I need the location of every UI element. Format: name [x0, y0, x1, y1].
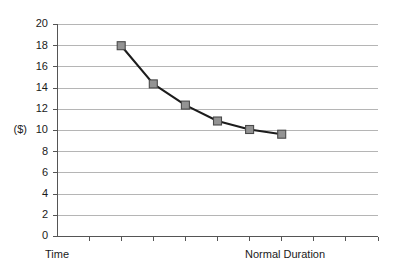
y-tick-label-0: 0: [42, 229, 48, 241]
data-point-marker: [149, 80, 157, 88]
data-point-marker: [278, 130, 286, 138]
y-tick-label-10: 10: [36, 123, 48, 135]
y-tick-label-16: 16: [36, 60, 48, 72]
y-tick-label-4: 4: [42, 187, 48, 199]
y-tick-label-14: 14: [36, 81, 48, 93]
data-point-marker: [117, 42, 125, 50]
data-point-marker: [181, 101, 189, 109]
y-tick-label-12: 12: [36, 102, 48, 114]
y-axis-unit-label: ($): [14, 123, 27, 135]
y-tick-label-8: 8: [42, 145, 48, 157]
series-line-cost: [121, 46, 282, 135]
data-point-marker: [246, 126, 254, 134]
y-tick-label-2: 2: [42, 208, 48, 220]
x-tick-marks-group: [89, 237, 378, 242]
chart-canvas: 20 18 16 14 12 10 8 6 4 2 0 ($) Time Nor…: [0, 0, 396, 274]
series-cost: [117, 42, 286, 139]
y-tick-marks-group: [53, 25, 57, 237]
y-tick-label-6: 6: [42, 166, 48, 178]
x-axis-annotation-normal-duration: Normal Duration: [245, 248, 325, 260]
y-tick-label-18: 18: [36, 39, 48, 51]
data-point-marker: [214, 117, 222, 125]
y-tick-labels-group: 20 18 16 14 12 10 8 6 4 2 0: [36, 17, 48, 241]
x-axis-label-time: Time: [45, 248, 69, 260]
line-chart: 20 18 16 14 12 10 8 6 4 2 0 ($) Time Nor…: [0, 0, 396, 274]
y-tick-label-20: 20: [36, 17, 48, 29]
